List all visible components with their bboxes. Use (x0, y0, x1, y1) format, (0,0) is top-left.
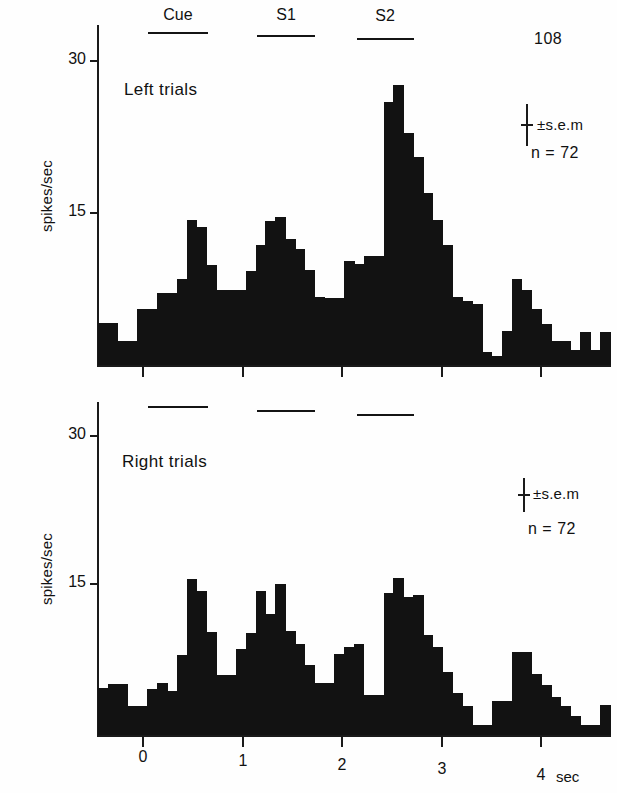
event-bar-s2-lower (357, 414, 414, 416)
x-unit-label: sec (556, 768, 579, 785)
histogram-bar (413, 595, 423, 735)
histogram-bar (216, 290, 226, 365)
x-tick-4 (540, 366, 542, 377)
x-tick-1-lower (242, 736, 244, 747)
panel-right-trials: ±s.e.m n = 72 Right trials 30 15 spikes/… (0, 390, 617, 793)
y-axis-label-lower: spikes/sec (38, 533, 55, 605)
histogram-bar (600, 705, 610, 735)
x-tick-0-lower (142, 736, 144, 747)
unit-id-number: 108 (534, 30, 562, 48)
x-tick-3 (441, 366, 443, 377)
x-axis-line (97, 365, 611, 367)
histogram-bar (285, 239, 295, 365)
histogram-bar (157, 293, 167, 365)
histogram-right-trials (98, 435, 610, 735)
y-axis-label: spikes/sec (38, 160, 55, 232)
histogram-bar (600, 332, 610, 365)
x-tick-2-lower (341, 736, 343, 747)
panel-left-trials: Cue S1 S2 108 ±s.e.m n = 72 Left trials … (0, 0, 617, 400)
histogram-bar (216, 675, 226, 735)
x-tick-label-0: 0 (128, 748, 158, 766)
y-tick-label-30: 30 (46, 50, 86, 68)
x-tick-2 (341, 366, 343, 377)
event-bar-s2 (357, 38, 414, 40)
x-tick-3-lower (441, 736, 443, 747)
histogram-left-trials (98, 62, 610, 365)
x-tick-label-1: 1 (228, 752, 258, 770)
event-label-s2: S2 (360, 7, 410, 25)
event-label-cue: Cue (153, 6, 203, 24)
event-bar-cue-lower (148, 406, 208, 408)
histogram-bar (472, 725, 482, 735)
event-bar-s1-lower (257, 410, 315, 412)
event-label-s1: S1 (261, 6, 311, 24)
y-tick-label-30-lower: 30 (46, 425, 86, 443)
histogram-bar (157, 683, 167, 735)
x-axis-line-lower (97, 735, 611, 737)
histogram-bar (344, 647, 354, 735)
x-tick-label-2: 2 (327, 756, 357, 774)
histogram-bar (344, 261, 354, 365)
x-tick-label-3: 3 (427, 760, 457, 778)
x-tick-label-4: 4 (526, 766, 556, 784)
histogram-bar (413, 157, 423, 365)
psth-figure: Cue S1 S2 108 ±s.e.m n = 72 Left trials … (0, 0, 617, 793)
x-tick-0 (142, 366, 144, 377)
histogram-bar (285, 631, 295, 735)
histogram-bar (541, 324, 551, 365)
event-bar-s1 (257, 35, 315, 37)
event-bar-cue (148, 32, 208, 34)
x-tick-1 (242, 366, 244, 377)
histogram-bar (472, 304, 482, 365)
x-tick-4-lower (540, 736, 542, 747)
histogram-bar (541, 685, 551, 735)
